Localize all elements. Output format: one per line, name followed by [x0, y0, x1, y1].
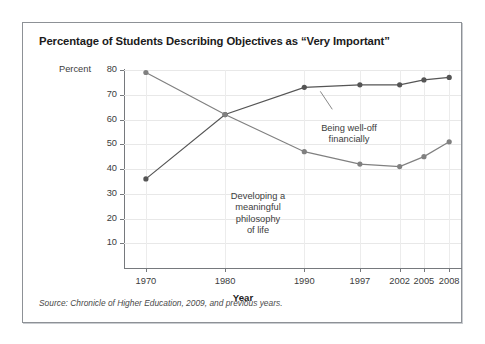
series-line	[146, 72, 449, 166]
x-tick-mark	[449, 268, 450, 272]
series-line	[146, 77, 449, 178]
x-axis-line	[124, 268, 462, 269]
x-tick-mark	[400, 268, 401, 272]
data-point	[397, 82, 402, 87]
y-tick-label: 50	[91, 138, 117, 148]
x-tick-mark	[304, 268, 305, 272]
x-tick-label: 1990	[282, 276, 326, 286]
y-tick-label: 40	[91, 163, 117, 173]
data-point	[397, 164, 402, 169]
x-tick-mark	[360, 268, 361, 272]
y-axis-title: Percent	[59, 64, 91, 74]
data-point	[223, 112, 228, 117]
series-lines	[124, 70, 461, 268]
annotation-line: Being well-off	[306, 123, 392, 134]
annotation-line: Developing a	[215, 191, 301, 202]
annotation-line: philosophy	[215, 214, 301, 225]
annotation-line: financially	[306, 134, 392, 145]
y-tick-label: 70	[91, 89, 117, 99]
annotation-line: meaningful	[215, 202, 301, 213]
x-tick-label: 1970	[124, 276, 168, 286]
y-tick-label: 80	[91, 64, 117, 74]
source-note: Source: Chronicle of Higher Education, 2…	[39, 298, 282, 308]
data-point	[357, 161, 362, 166]
data-point	[447, 139, 452, 144]
x-tick-label: 1980	[203, 276, 247, 286]
figure-frame: Percentage of Students Describing Object…	[22, 22, 462, 323]
data-point	[143, 176, 148, 181]
y-tick-label: 20	[91, 213, 117, 223]
data-point	[421, 77, 426, 82]
y-tick-label: 60	[91, 114, 117, 124]
x-tick-label: 1997	[338, 276, 382, 286]
data-point	[357, 82, 362, 87]
page-title: Percentage of Students Describing Object…	[39, 35, 390, 47]
y-tick-label: 10	[91, 237, 117, 247]
data-point	[447, 75, 452, 80]
annotation-being-well-off: Being well-offfinancially	[306, 123, 392, 146]
annotation-leader-line	[320, 91, 332, 109]
x-tick-label: 2008	[427, 276, 471, 286]
data-point	[302, 85, 307, 90]
data-point	[421, 154, 426, 159]
annotation-developing-philosophy: Developing ameaningfulphilosophyof life	[215, 191, 301, 237]
x-tick-mark	[424, 268, 425, 272]
data-point	[143, 70, 148, 75]
plot-area: 1020304050607080 19701980199019972002200…	[124, 70, 461, 268]
x-tick-mark	[146, 268, 147, 272]
y-tick-label: 30	[91, 188, 117, 198]
data-point	[302, 149, 307, 154]
x-tick-mark	[225, 268, 226, 272]
annotation-line: of life	[215, 225, 301, 236]
